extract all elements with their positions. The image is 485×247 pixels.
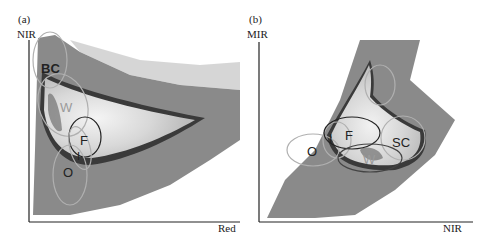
cluster-label-i: I — [329, 132, 332, 146]
cluster-label-o: O — [63, 165, 73, 180]
panel-b: (b) MIR NIR O I F SC W — [245, 0, 485, 247]
cluster-label-f: F — [80, 133, 88, 148]
panel-a: (a) NIR Red — [0, 0, 242, 247]
cluster-label-w: W — [60, 100, 73, 115]
cluster-label-sc: SC — [392, 135, 410, 150]
cluster-label-o: O — [307, 144, 317, 159]
cluster-label-w: W — [363, 152, 376, 167]
cluster-label-f: F — [345, 128, 353, 143]
panel-a-plot: BC W F I O — [0, 0, 242, 247]
cluster-label-bc: BC — [41, 61, 60, 76]
cluster-label-i: I — [77, 150, 80, 162]
panel-b-plot: O I F SC W — [245, 0, 485, 247]
